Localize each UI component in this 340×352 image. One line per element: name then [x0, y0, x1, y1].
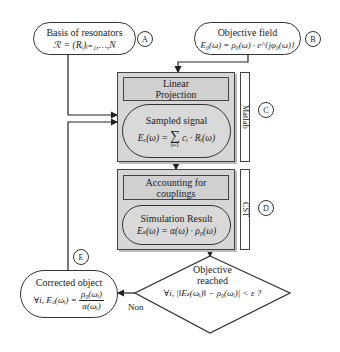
accounting-line1: Accounting for	[146, 177, 207, 188]
basis-formula: ℛ = (Rᵢ)ᵢ₌₁,…,N	[53, 39, 115, 51]
marker-c: C	[258, 102, 274, 118]
matlab-label: Matlab	[240, 72, 250, 162]
decision-line2: reached	[135, 275, 290, 286]
objective-formula: E₀(ω) = ρ₀(ω) · e^{jφ₀(ω)}	[201, 39, 295, 51]
linear-projection-box: Linear Projection	[123, 77, 229, 101]
basis-title: Basis of resonators	[46, 27, 122, 39]
corrected-denominator: α(ωᵢ)	[80, 301, 103, 312]
decision-condition: ∀i, |‖Eₛ(ωᵢ)‖ − ρ₀(ωᵢ)| < ε ?	[135, 287, 290, 299]
simulation-title: Simulation Result	[141, 213, 213, 225]
marker-a: A	[137, 31, 153, 47]
simulation-formula: Eₛ(ω) = α(ω) · ρ₀(ω)	[137, 225, 216, 237]
decision-node: Objective reached ∀i, |‖Eₛ(ωᵢ)‖ − ρ₀(ωᵢ)…	[135, 264, 290, 299]
sampled-lhs: Eₑ(ω) =	[138, 132, 168, 144]
objective-title: Objective field	[218, 27, 278, 39]
sampled-signal-title: Sampled signal	[146, 115, 207, 127]
marker-e: E	[73, 249, 89, 265]
simulation-result-node: Simulation Result Eₛ(ω) = α(ω) · ρ₀(ω)	[122, 205, 231, 245]
marker-d: D	[258, 200, 274, 216]
sampled-signal-node: Sampled signal Eₑ(ω) = ∑ i=1 cᵢ · Rᵢ(ω)	[122, 104, 231, 158]
accounting-line2: couplings	[157, 188, 196, 199]
basis-of-resonators-node: Basis of resonators ℛ = (Rᵢ)ᵢ₌₁,…,N	[33, 22, 136, 55]
sum-lower: i=1	[171, 142, 179, 148]
sampled-signal-formula: Eₑ(ω) = ∑ i=1 cᵢ · Rᵢ(ω)	[138, 129, 215, 148]
corrected-title: Corrected object	[36, 277, 102, 289]
no-branch-label: Non	[128, 302, 144, 312]
sampled-rhs: cᵢ · Rᵢ(ω)	[182, 132, 215, 144]
corrected-lhs: ∀i, E꜀(ωᵢ) =	[34, 294, 77, 306]
linear-projection-line2: Projection	[155, 89, 196, 100]
corrected-formula: ∀i, E꜀(ωᵢ) = ρ₀(ωᵢ) α(ωᵢ)	[34, 289, 104, 312]
corrected-numerator: ρ₀(ωᵢ)	[79, 289, 104, 301]
sum-symbol: ∑	[170, 129, 180, 142]
accounting-box: Accounting for couplings	[123, 175, 229, 200]
cst-label: CST	[240, 169, 250, 250]
marker-b: B	[305, 31, 321, 47]
objective-field-node: Objective field E₀(ω) = ρ₀(ω) · e^{jφ₀(ω…	[194, 22, 301, 55]
linear-projection-line1: Linear	[163, 78, 189, 89]
decision-line1: Objective	[135, 264, 290, 275]
corrected-object-node: Corrected object ∀i, E꜀(ωᵢ) = ρ₀(ωᵢ) α(ω…	[20, 270, 118, 318]
matlab-label-text: Matlab	[241, 105, 250, 129]
cst-label-text: CST	[241, 202, 250, 217]
